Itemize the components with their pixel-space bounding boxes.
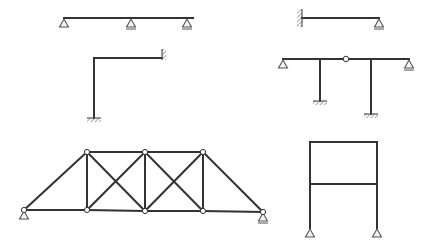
pin-support-icon <box>60 19 69 27</box>
roller-support-icon <box>375 19 384 27</box>
pin-support <box>60 19 69 27</box>
roller-support-icon <box>405 60 414 68</box>
hinged-frame-supports <box>279 60 415 118</box>
hatch-icon <box>162 49 166 60</box>
pin-support <box>306 229 315 237</box>
supports-layer <box>20 9 415 237</box>
roller-support <box>182 19 192 29</box>
fixed-ground-support <box>364 114 378 118</box>
hinged-frame <box>283 59 409 114</box>
portal-frame-supports <box>306 229 382 237</box>
truss-member <box>87 210 145 211</box>
truss <box>24 152 263 212</box>
hatch-icon <box>297 9 302 27</box>
pin-support-icon <box>279 60 288 68</box>
roller-support <box>126 19 136 29</box>
fixed-ground-support <box>87 118 101 122</box>
truss-node-icon <box>200 149 205 154</box>
truss-member <box>203 211 263 212</box>
truss-node-icon <box>142 208 147 213</box>
nodes-layer <box>21 56 348 214</box>
pin-support-icon <box>373 229 382 237</box>
fixed-wall-left-support <box>297 9 302 27</box>
pin-support-icon <box>306 229 315 237</box>
roller-support-icon <box>127 19 136 27</box>
structural-diagrams <box>0 0 433 250</box>
pin-support <box>279 60 288 68</box>
truss-node-icon <box>260 209 265 214</box>
hatch-icon <box>87 118 101 122</box>
hatch-icon <box>313 101 327 105</box>
roller-support <box>404 60 414 70</box>
truss-node-icon <box>21 207 26 212</box>
truss-node-icon <box>84 149 89 154</box>
fixed-ground-support <box>313 101 327 105</box>
truss-node-icon <box>84 207 89 212</box>
roller-support <box>374 19 384 29</box>
portal-frame <box>310 142 377 228</box>
l-frame <box>94 58 162 118</box>
hinge-icon <box>343 56 349 62</box>
roller-support-icon <box>183 19 192 27</box>
l-frame-supports <box>87 49 166 122</box>
continuous-beam-supports <box>60 19 193 29</box>
truss-node-icon <box>142 149 147 154</box>
members-layer <box>24 18 409 228</box>
truss-member <box>24 152 87 210</box>
diagram-svg <box>0 0 433 250</box>
hatch-icon <box>364 114 378 118</box>
pin-support <box>373 229 382 237</box>
truss-node-icon <box>200 208 205 213</box>
fixed-wall-right-support <box>162 49 166 60</box>
truss-member <box>203 152 263 212</box>
